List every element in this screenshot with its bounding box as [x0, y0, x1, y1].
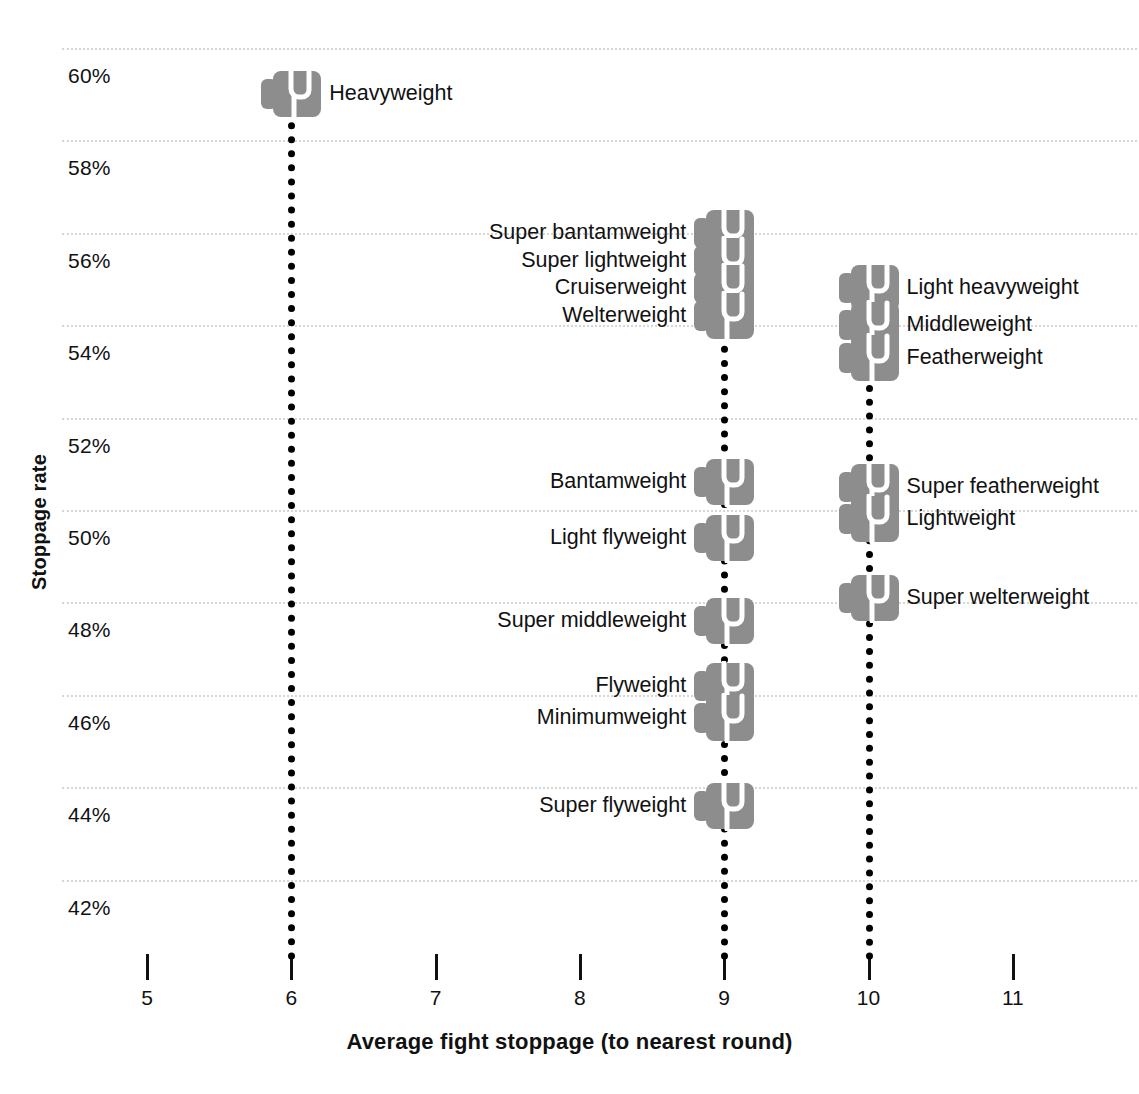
gridline	[62, 418, 1137, 420]
y-tick-label: 50%	[68, 526, 111, 550]
data-point-label: Cruiserweight	[555, 277, 686, 299]
x-tick-label: 8	[550, 986, 610, 1010]
stem-line	[288, 94, 295, 960]
data-point-label: Super middleweight	[497, 610, 686, 632]
stoppage-rate-chart: 42%44%46%48%50%52%54%56%58%60% 567891011…	[0, 0, 1139, 1094]
data-point-label: Minimumweight	[537, 707, 686, 729]
y-tick-label: 54%	[68, 341, 111, 365]
data-point-label: Bantamweight	[550, 472, 686, 494]
data-point-marker	[261, 69, 321, 119]
y-tick-label: 56%	[68, 249, 111, 273]
x-axis-title: Average fight stoppage (to nearest round…	[0, 1029, 1139, 1055]
y-tick-label: 42%	[68, 896, 111, 920]
y-axis-title: Stoppage rate	[28, 454, 51, 590]
y-tick-label: 46%	[68, 711, 111, 735]
boxing-glove-icon	[694, 513, 754, 563]
x-tick-mark	[146, 954, 149, 980]
boxing-glove-icon	[694, 596, 754, 646]
data-point-marker	[839, 573, 899, 623]
gridline	[62, 48, 1137, 50]
data-point-marker	[694, 457, 754, 507]
data-point-marker	[694, 291, 754, 341]
x-tick-mark	[435, 954, 438, 980]
boxing-glove-icon	[694, 781, 754, 831]
x-tick-label: 6	[261, 986, 321, 1010]
data-point-label: Super flyweight	[539, 795, 686, 817]
x-tick-label: 11	[983, 986, 1043, 1010]
data-point-label: Super lightweight	[521, 250, 686, 272]
data-point-label: Super bantamweight	[489, 222, 686, 244]
x-tick-mark	[1012, 954, 1015, 980]
data-point-marker	[694, 781, 754, 831]
data-point-label: Flyweight	[595, 675, 686, 697]
boxing-glove-icon	[839, 494, 899, 544]
data-point-label: Heavyweight	[329, 83, 452, 105]
y-tick-label: 48%	[68, 618, 111, 642]
x-tick-mark	[579, 954, 582, 980]
x-tick-label: 9	[694, 986, 754, 1010]
boxing-glove-icon	[694, 693, 754, 743]
y-tick-label: 58%	[68, 156, 111, 180]
boxing-glove-icon	[261, 69, 321, 119]
data-point-label: Super featherweight	[907, 476, 1099, 498]
data-point-label: Light flyweight	[550, 527, 686, 549]
stem-line	[866, 288, 873, 960]
boxing-glove-icon	[694, 457, 754, 507]
gridline	[62, 787, 1137, 789]
gridline	[62, 140, 1137, 142]
boxing-glove-icon	[839, 333, 899, 383]
boxing-glove-icon	[694, 291, 754, 341]
x-tick-label: 10	[839, 986, 899, 1010]
data-point-label: Lightweight	[907, 508, 1016, 530]
x-tick-label: 7	[406, 986, 466, 1010]
data-point-marker	[694, 513, 754, 563]
boxing-glove-icon	[839, 573, 899, 623]
data-point-label: Middleweight	[907, 314, 1032, 336]
y-tick-label: 52%	[68, 434, 111, 458]
gridline	[62, 880, 1137, 882]
y-tick-label: 60%	[68, 64, 111, 88]
data-point-marker	[839, 494, 899, 544]
data-point-label: Welterweight	[562, 305, 686, 327]
y-tick-label: 44%	[68, 803, 111, 827]
x-tick-label: 5	[117, 986, 177, 1010]
data-point-label: Featherweight	[907, 347, 1043, 369]
data-point-label: Light heavyweight	[907, 277, 1079, 299]
data-point-marker	[839, 333, 899, 383]
data-point-marker	[694, 693, 754, 743]
data-point-label: Super welterweight	[907, 587, 1090, 609]
data-point-marker	[694, 596, 754, 646]
